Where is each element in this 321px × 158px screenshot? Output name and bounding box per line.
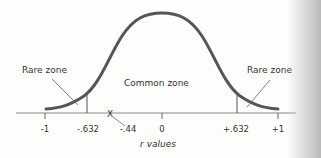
marker-x: X — [107, 109, 113, 119]
rare-zone-right-label: Rare zone — [247, 65, 292, 75]
rare-zone-right-leader — [247, 80, 270, 107]
rare-zone-left-label: Rare zone — [22, 65, 67, 75]
rare-zone-left-leader — [52, 79, 78, 105]
tick-label-plus-1: +1 — [272, 124, 285, 134]
axis-title: r values — [140, 139, 176, 149]
tick-label-minus-1: -1 — [41, 124, 49, 134]
tick-label-minus-44: -.44 — [120, 124, 137, 134]
tick-label-plus-632: +.632 — [223, 124, 249, 134]
tick-label-minus-632: -.632 — [77, 124, 99, 134]
tick-label-zero: 0 — [159, 124, 164, 134]
common-zone-label: Common zone — [124, 78, 189, 88]
bell-curve-diagram: X Rare zone Common zone Rare zone -1 -.6… — [0, 0, 321, 158]
bell-curve — [46, 13, 278, 109]
page-edge-shadow — [287, 0, 321, 158]
